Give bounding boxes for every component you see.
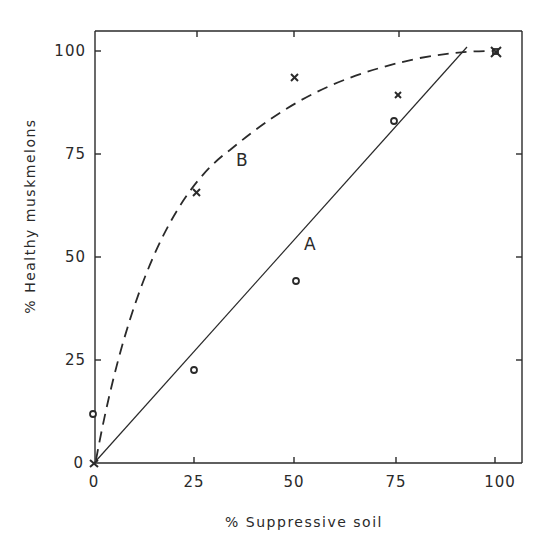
y-tick-label: 75 bbox=[65, 145, 86, 163]
data-point-b bbox=[395, 92, 401, 98]
y-tick-label: 0 bbox=[73, 454, 84, 472]
curve-b-label: B bbox=[236, 150, 248, 170]
curve-b-curve bbox=[96, 51, 496, 460]
x-axis-title: % Suppressive soil bbox=[225, 514, 383, 530]
data-point-b bbox=[193, 189, 200, 196]
data-point-b bbox=[291, 74, 298, 81]
curve-a-line bbox=[95, 47, 467, 462]
data-point-a bbox=[191, 367, 197, 373]
x-tick-label: 75 bbox=[385, 473, 406, 491]
curve-a-label: A bbox=[304, 234, 316, 254]
x-tick-label: 100 bbox=[484, 473, 516, 491]
chart: 0 25 50 75 100 0 25 50 75 100 % Suppress… bbox=[0, 0, 545, 557]
y-tick-label: 50 bbox=[65, 248, 86, 266]
series-b-markers bbox=[90, 47, 501, 467]
data-point-a bbox=[391, 118, 397, 124]
x-tick-label: 25 bbox=[183, 473, 204, 491]
data-point-a bbox=[90, 411, 96, 417]
y-tick-label: 25 bbox=[65, 351, 86, 369]
x-tick-label: 0 bbox=[89, 473, 100, 491]
x-tick-label: 50 bbox=[283, 473, 304, 491]
y-tick-label: 100 bbox=[54, 42, 86, 60]
x-tick-labels: 0 25 50 75 100 bbox=[89, 473, 516, 491]
data-point-a bbox=[293, 278, 299, 284]
y-axis-title: % Healthy muskmelons bbox=[22, 118, 38, 313]
y-tick-labels: 0 25 50 75 100 bbox=[54, 42, 86, 472]
